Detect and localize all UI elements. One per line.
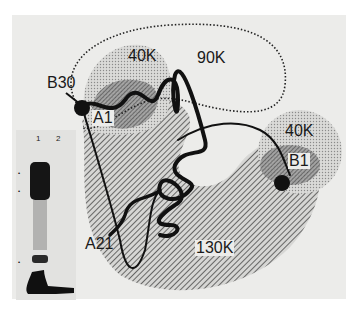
label-40k-b: 40K <box>285 123 313 139</box>
label-130k: 130K <box>195 240 234 256</box>
label-40k-a: 40K <box>128 48 156 64</box>
b1-dot <box>274 175 290 191</box>
gel-bands <box>16 130 76 300</box>
gel-inset: 1 2 • • • <box>16 130 76 300</box>
label-90k: 90K <box>197 50 225 66</box>
label-a21: A21 <box>85 236 113 252</box>
label-b1: B1 <box>288 153 310 169</box>
b30-pointer <box>66 93 80 104</box>
label-a1: A1 <box>92 110 114 126</box>
label-b30: B30 <box>47 75 75 91</box>
